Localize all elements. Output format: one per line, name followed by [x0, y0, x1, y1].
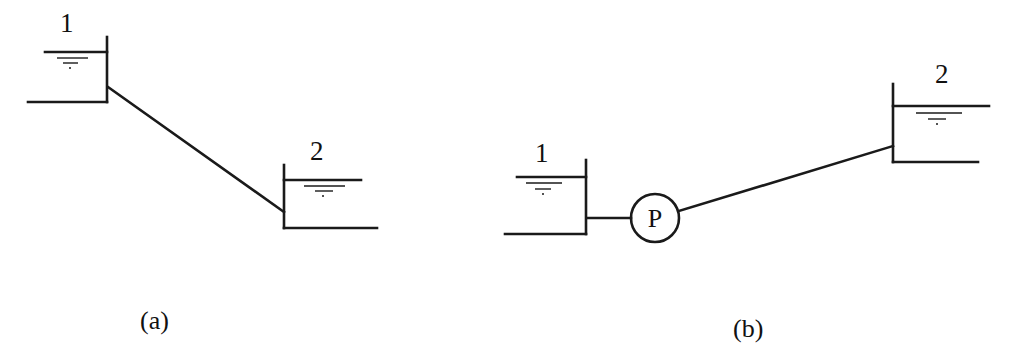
- water-level-symbol-icon: [57, 58, 88, 68]
- caption-a: (a): [140, 306, 169, 335]
- panel-a: 1 2 (a): [28, 8, 377, 335]
- water-level-symbol-icon: [304, 186, 345, 196]
- panel-b: 1 P 2: [505, 59, 989, 343]
- pipe-a: [108, 87, 284, 212]
- reservoir-2-b-label: 2: [935, 59, 949, 89]
- caption-b: (b): [733, 314, 763, 343]
- reservoir-1-b: 1: [505, 138, 586, 234]
- discharge-pipe: [679, 146, 893, 211]
- water-level-symbol-icon: [916, 113, 962, 124]
- diagram-canvas: 1 2 (a): [0, 0, 1013, 360]
- reservoir-1-b-label: 1: [535, 138, 549, 168]
- reservoir-2-a: 2: [284, 136, 377, 228]
- pump: P: [631, 194, 679, 242]
- reservoir-2-b: 2: [893, 59, 989, 162]
- reservoir-1-a-label: 1: [60, 8, 74, 38]
- reservoir-2-a-label: 2: [310, 136, 324, 166]
- water-level-symbol-icon: [526, 183, 562, 194]
- pump-label: P: [648, 204, 662, 233]
- reservoir-1-a: 1: [28, 8, 107, 102]
